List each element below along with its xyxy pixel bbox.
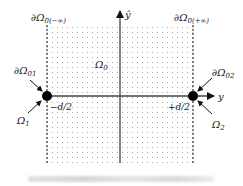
label-axis-vertical: ŷ <box>124 9 131 20</box>
pointer-boundary-left-port <box>30 80 42 91</box>
tick-left: −d/2 <box>50 102 72 112</box>
label-boundary-right-top: ∂Ω0(+∞) <box>174 12 209 25</box>
domain-diagram: ∂Ω0(−∞) ∂Ω0(+∞) ŷ y Ω0 ∂Ω01 ∂Ω02 Ω1 Ω2 −… <box>0 0 243 186</box>
tick-right: +d/2 <box>168 102 190 112</box>
pointer-port-right <box>198 101 212 114</box>
label-axis-horizontal: y <box>217 91 224 102</box>
pointer-boundary-right-port <box>198 78 212 91</box>
port-right-marker <box>188 91 198 101</box>
label-port-right: Ω2 <box>211 119 225 132</box>
label-port-left: Ω1 <box>16 115 30 128</box>
pointer-port-left <box>28 101 41 113</box>
label-boundary-left-top: ∂Ω0(−∞) <box>31 12 66 25</box>
label-boundary-left-port: ∂Ω01 <box>14 65 36 78</box>
label-boundary-right-port: ∂Ω02 <box>212 67 235 80</box>
port-left-marker <box>42 91 52 101</box>
figure-caption-blurred <box>28 176 214 182</box>
